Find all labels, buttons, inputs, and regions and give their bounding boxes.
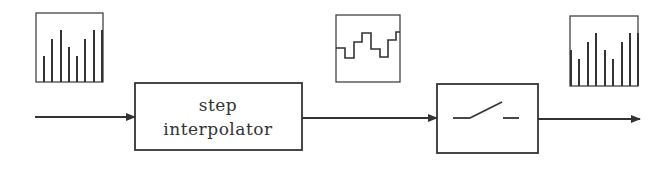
input-sample-bars (44, 30, 102, 82)
output-signal-plot (570, 16, 638, 86)
signal-flow-diagram: step interpolator (0, 0, 667, 183)
step-interpolator-block: step interpolator (135, 83, 302, 150)
block-label-line-1: step (199, 95, 238, 115)
staircase-waveform (336, 32, 400, 58)
sampler-switch-block (437, 84, 538, 153)
output-sample-bars (571, 33, 638, 86)
block-label-line-2: interpolator (163, 119, 273, 139)
interpolated-signal-plot (336, 15, 400, 82)
input-signal-plot (36, 13, 103, 82)
